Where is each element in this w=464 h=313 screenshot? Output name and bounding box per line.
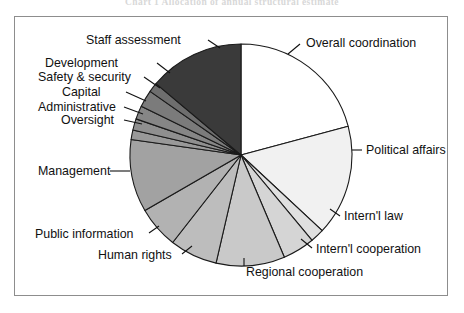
- pie-chart: Overall coordinationPolitical affairsInt…: [0, 0, 464, 313]
- pie-slice-group: [130, 44, 352, 266]
- pie-slice-label: Safety & security: [38, 71, 131, 84]
- pie-slice-label: Human rights: [98, 249, 172, 262]
- pie-slice-label: Political affairs: [366, 144, 446, 157]
- pie-slice-label: Intern'l law: [344, 210, 403, 223]
- pie-slice-label: Overall coordination: [306, 37, 416, 50]
- pie-slice-label: Capital: [62, 86, 101, 99]
- pie-slice-label: Public information: [35, 228, 133, 241]
- pie-slice-label: Development: [45, 57, 118, 70]
- leader-line: [149, 226, 159, 233]
- pie-slice-label: Oversight: [61, 114, 114, 127]
- pie-slice-label: Intern'l cooperation: [316, 243, 421, 256]
- leader-line: [126, 92, 146, 101]
- pie-slice-label: Regional cooperation: [246, 266, 363, 279]
- leader-line: [157, 63, 170, 73]
- pie-slice-label: Staff assessment: [86, 34, 181, 47]
- leader-line: [288, 44, 300, 54]
- pie-slice-label: Administrative: [38, 101, 116, 114]
- pie-slice-label: Management: [38, 165, 110, 178]
- figure-page: Chart 1 Allocation of annual structural …: [0, 0, 464, 313]
